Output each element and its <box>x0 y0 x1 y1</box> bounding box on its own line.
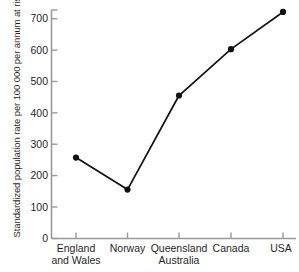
plot-area <box>0 0 299 272</box>
x-tick-label-line: and Wales <box>51 255 100 267</box>
data-point <box>73 154 79 160</box>
x-tick-label-line: Canada <box>213 243 250 255</box>
data-point <box>280 9 286 15</box>
y-axis-ticks <box>52 10 58 239</box>
chart-figure: Standardized population rate per 100 000… <box>0 0 299 272</box>
x-tick-label-line: Norway <box>110 243 146 255</box>
data-point <box>176 92 182 98</box>
x-axis-ticks <box>76 233 283 239</box>
x-tick-label-line: Australia <box>151 255 208 267</box>
data-markers-series-1 <box>73 9 286 193</box>
x-tick-label-line: USA <box>270 243 292 255</box>
data-point <box>124 186 130 192</box>
x-tick-label-line: Queensland <box>151 243 208 255</box>
x-tick-label-usa: USA <box>270 243 292 255</box>
x-tick-label-canada: Canada <box>213 243 250 255</box>
x-tick-label-line: England <box>51 243 100 255</box>
x-tick-label-norway: Norway <box>110 243 146 255</box>
x-tick-label-queensland-australia: Queensland Australia <box>151 243 208 266</box>
data-point <box>228 46 234 52</box>
x-tick-label-england-and-wales: England and Wales <box>51 243 100 266</box>
data-line-series-1 <box>76 12 283 190</box>
